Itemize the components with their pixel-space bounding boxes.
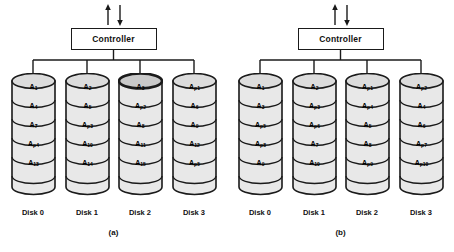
disk-block: Ap8: [238, 134, 283, 153]
disk-block: A3: [238, 96, 283, 115]
disk-array-a: A1 A4 A7 Ap4 A13: [0, 73, 227, 203]
disk-block: Ap2: [118, 96, 163, 115]
controller-box[interactable]: Controller: [71, 28, 157, 50]
disk-1[interactable]: A2 Ap3 Ap6 A7 A10: [292, 73, 337, 201]
disk-block: A7: [292, 134, 337, 153]
disk-block: A2: [292, 77, 337, 96]
panel-b: Controller: [227, 0, 454, 252]
disk-block: A14: [65, 153, 110, 172]
disk-3-caption: Disk 3: [391, 208, 451, 217]
disk-block: A13: [11, 153, 56, 172]
disk-block: Ap2: [399, 77, 444, 96]
disk-block: Ap4: [345, 96, 390, 115]
disk-array-b: A1 A3 Ap5 Ap8 A9: [227, 73, 454, 203]
disk-block: Ap5: [238, 115, 283, 134]
disk-block: A6: [399, 115, 444, 134]
controller-box[interactable]: Controller: [298, 28, 384, 50]
disk-block: A4: [11, 96, 56, 115]
disk-block: Ap1: [172, 77, 217, 96]
disk-1[interactable]: A2 A5 Ap3 A10 A14: [65, 73, 110, 201]
arrow-down-icon: [344, 20, 350, 26]
controller-io-arrows: [101, 4, 127, 26]
disk-block: A5: [345, 115, 390, 134]
disk-block: A8: [345, 134, 390, 153]
disk-block: A9: [238, 153, 283, 172]
disk-0[interactable]: A1 A4 A7 Ap4 A13: [11, 73, 56, 201]
disk-block: A2: [65, 77, 110, 96]
disk-block: Ap6: [292, 115, 337, 134]
disk-3[interactable]: Ap1 A6 A9 A12 Ap5: [172, 73, 217, 201]
disk-0-caption: Disk 0: [230, 208, 290, 217]
disk-block: A11: [118, 134, 163, 153]
disk-block: A1: [238, 77, 283, 96]
disk-2-caption: Disk 2: [110, 208, 170, 217]
disk-block: Ap5: [172, 153, 217, 172]
disk-2-caption: Disk 2: [337, 208, 397, 217]
disk-block: Ap9: [345, 153, 390, 172]
disk-block: A15: [118, 153, 163, 172]
disk-block: Ap3: [292, 96, 337, 115]
disk-block: Ap1: [345, 77, 390, 96]
arrow-up-icon: [105, 4, 111, 10]
disk-block: A12: [172, 134, 217, 153]
disk-block: Ap7: [399, 134, 444, 153]
panel-a-label: (a): [109, 228, 119, 237]
disk-block: A10: [292, 153, 337, 172]
disk-1-caption: Disk 1: [57, 208, 117, 217]
disk-0[interactable]: A1 A3 Ap5 Ap8 A9: [238, 73, 283, 201]
disk-block: Ap3: [65, 115, 110, 134]
disk-block: A7: [11, 115, 56, 134]
disk-block: A4: [399, 96, 444, 115]
disk-block: A5: [65, 96, 110, 115]
disk-block: Ap10: [399, 153, 444, 172]
arrow-up-icon: [332, 4, 338, 10]
disk-block: A3: [118, 77, 163, 96]
controller-io-arrows: [328, 4, 354, 26]
disk-block: A6: [172, 96, 217, 115]
disk-block: A10: [65, 134, 110, 153]
panel-a: Controller: [0, 0, 227, 252]
arrow-down-icon: [117, 20, 123, 26]
controller-disk-bus: [227, 50, 454, 74]
disk-2[interactable]: Ap1 Ap4 A5 A8 Ap9: [345, 73, 390, 201]
disk-3-caption: Disk 3: [164, 208, 224, 217]
raid-diagram: Controller: [0, 0, 454, 252]
disk-0-caption: Disk 0: [3, 208, 63, 217]
disk-2[interactable]: A3 Ap2 A8 A11 A15: [118, 73, 163, 201]
disk-block: A1: [11, 77, 56, 96]
controller-disk-bus: [0, 50, 227, 74]
disk-3[interactable]: Ap2 A4 A6 Ap7 Ap10: [399, 73, 444, 201]
disk-block: Ap4: [11, 134, 56, 153]
panel-b-label: (b): [335, 228, 345, 237]
disk-block: A9: [172, 115, 217, 134]
disk-block: A8: [118, 115, 163, 134]
disk-1-caption: Disk 1: [284, 208, 344, 217]
